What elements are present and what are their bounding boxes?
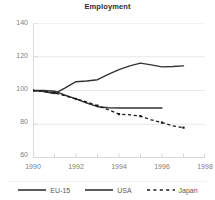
series-line-usa [33,63,184,93]
y-axis-tick-80: 80 [2,118,28,126]
gridlines [33,23,205,124]
y-axis-tick-140: 140 [2,19,28,27]
solid-line-key-icon [84,186,114,194]
x-axis-tick-1998: 1998 [190,163,215,171]
legend-label-eu-15: EU-15 [50,187,70,194]
y-axis-ticks [34,23,38,124]
plot-area [33,23,205,158]
plot-svg [33,23,205,158]
chart-title: Employment [0,2,215,11]
y-axis-tick-120: 120 [2,52,28,60]
legend-item-usa[interactable]: USA [84,186,131,194]
x-axis-tick-1996: 1996 [147,163,177,171]
solid-line-key-icon [17,186,47,194]
legend-item-eu-15[interactable]: EU-15 [17,186,70,194]
employment-chart: Employment 140 120 100 80 60 1990 1992 1… [0,0,215,200]
y-axis-tick-100: 100 [2,85,28,93]
x-axis-tick-1992: 1992 [61,163,91,171]
x-axis-minor-ticks [55,154,205,158]
x-axis-tick-1990: 1990 [18,163,48,171]
legend-item-japan[interactable]: Japan [146,186,198,194]
x-axis-tick-1994: 1994 [104,163,134,171]
chart-legend: EU-15 USA Japan [0,181,215,199]
series-markers-japan [33,89,185,128]
dashed-line-key-icon [146,186,176,194]
y-axis-tick-60: 60 [2,151,28,159]
legend-divider [8,181,207,182]
legend-label-usa: USA [117,187,131,194]
legend-label-japan: Japan [179,187,198,194]
